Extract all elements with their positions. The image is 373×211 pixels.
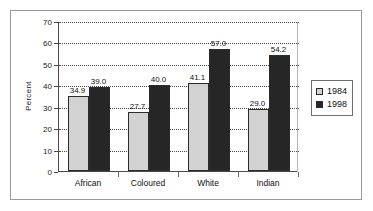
legend-swatch-icon [316, 88, 323, 95]
chart-figure: Percent 010203040506070 34.939.027.740.0… [0, 0, 373, 211]
y-axis-tick-label: 0 [30, 168, 52, 177]
x-axis-category-label: Coloured [131, 178, 166, 188]
x-axis-tick-mark [118, 172, 119, 177]
y-axis-tick-label: 20 [30, 125, 52, 134]
x-axis-category-label: Indian [256, 178, 279, 188]
gridline [59, 65, 299, 66]
bar-white-1984 [188, 83, 209, 171]
bar-value-label: 54.2 [271, 45, 287, 54]
legend-item-1984[interactable]: 1984 [316, 85, 347, 98]
legend-swatch-icon [316, 101, 323, 108]
bar-coloured-1984 [128, 112, 149, 171]
bar-value-label: 39.0 [91, 77, 107, 86]
legend-item-1998[interactable]: 1998 [316, 98, 347, 111]
y-axis-tick-label: 60 [30, 39, 52, 48]
bar-indian-1998 [269, 55, 290, 171]
bar-value-label: 41.1 [190, 73, 206, 82]
bar-african-1998 [89, 87, 110, 171]
y-axis-tick-label: 10 [30, 146, 52, 155]
y-axis-tick-label: 30 [30, 103, 52, 112]
plot-right-edge [297, 22, 298, 172]
bar-value-label: 29.0 [250, 99, 266, 108]
x-axis-category-label: White [197, 178, 219, 188]
x-axis-tick-mark [178, 172, 179, 177]
bar-value-label: 27.7 [130, 102, 146, 111]
legend: 19841998 [311, 80, 353, 116]
y-axis-tick-label: 40 [30, 82, 52, 91]
bar-coloured-1998 [149, 85, 170, 171]
gridline [59, 22, 299, 23]
bar-white-1998 [209, 49, 230, 171]
legend-label: 1984 [327, 87, 347, 96]
x-axis-tick-mark [238, 172, 239, 177]
gridline [59, 43, 299, 44]
y-axis-tick-label: 70 [30, 18, 52, 27]
x-axis-tick-mark [298, 172, 299, 177]
x-axis-category-label: African [75, 178, 101, 188]
bar-value-label: 34.9 [70, 86, 86, 95]
y-axis-tick-label: 50 [30, 60, 52, 69]
plot-area [58, 22, 298, 172]
bar-value-label: 57.0 [211, 39, 227, 48]
bar-value-label: 40.0 [151, 75, 167, 84]
legend-label: 1998 [327, 100, 347, 109]
y-axis-tick-mark [54, 172, 58, 173]
bar-indian-1984 [248, 109, 269, 171]
bar-african-1984 [68, 96, 89, 171]
